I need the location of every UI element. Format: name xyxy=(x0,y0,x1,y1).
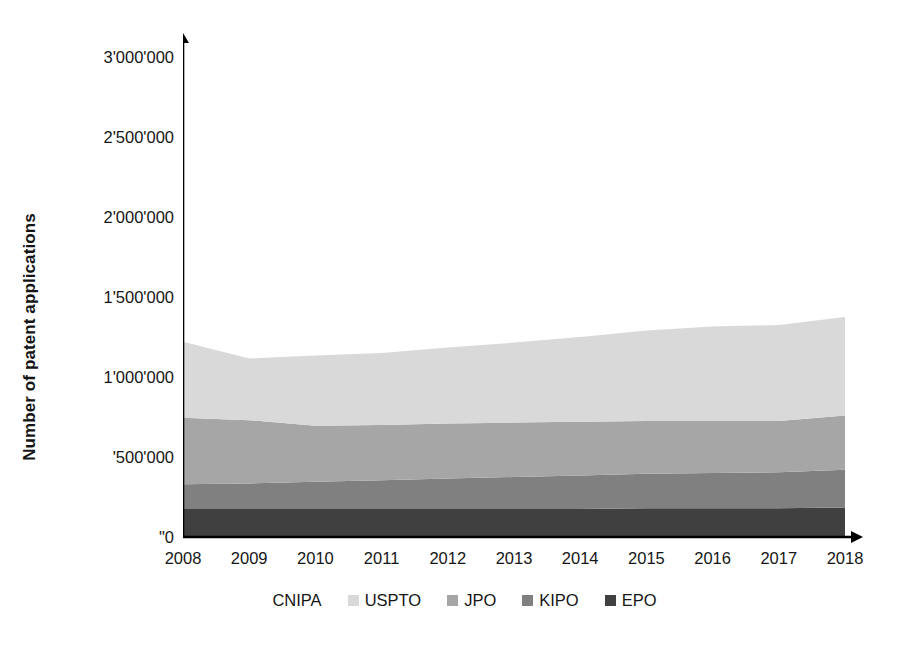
x-tick-label: 2012 xyxy=(413,549,483,569)
x-tick-label: 2018 xyxy=(810,549,880,569)
y-tick-label: 1'000'000 xyxy=(64,369,174,386)
y-tick-label: 1'500'000 xyxy=(64,289,174,306)
legend-swatch-icon xyxy=(522,595,533,606)
x-tick-label: 2013 xyxy=(479,549,549,569)
y-tick-label: 3'000'000 xyxy=(64,49,174,66)
legend-swatch-icon xyxy=(605,595,616,606)
area-band-epo xyxy=(183,507,845,537)
legend-label: EPO xyxy=(622,592,657,609)
x-tick-label: 2014 xyxy=(545,549,615,569)
area-band-uspto xyxy=(183,317,845,426)
plot-area xyxy=(183,33,863,543)
x-tick-label: 2009 xyxy=(214,549,284,569)
legend-item-epo[interactable]: EPO xyxy=(605,592,657,609)
chart-legend: CNIPAUSPTOJPOKIPOEPO xyxy=(0,592,912,609)
x-axis-arrow xyxy=(851,531,863,543)
y-axis-title-text: Number of patent applications xyxy=(20,213,40,461)
legend-label: USPTO xyxy=(365,592,422,609)
legend-item-kipo[interactable]: KIPO xyxy=(522,592,578,609)
legend-item-cnipa[interactable]: CNIPA xyxy=(255,592,321,609)
legend-swatch-icon xyxy=(348,595,359,606)
x-tick-label: 2016 xyxy=(678,549,748,569)
x-tick-label: 2008 xyxy=(148,549,218,569)
legend-swatch-icon xyxy=(447,595,458,606)
x-tick-label: 2011 xyxy=(347,549,417,569)
stacked-area-plot xyxy=(183,33,863,543)
legend-item-uspto[interactable]: USPTO xyxy=(348,592,422,609)
legend-swatch-icon xyxy=(255,595,266,606)
y-tick-label: '500'000 xyxy=(64,449,174,466)
chart-figure: Number of patent applications "0'500'000… xyxy=(0,0,912,649)
x-tick-label: 2010 xyxy=(280,549,350,569)
legend-label: KIPO xyxy=(539,592,578,609)
x-tick-label: 2015 xyxy=(611,549,681,569)
legend-label: JPO xyxy=(464,592,496,609)
x-tick-label: 2017 xyxy=(744,549,814,569)
y-tick-label: 2'500'000 xyxy=(64,129,174,146)
legend-item-jpo[interactable]: JPO xyxy=(447,592,496,609)
y-tick-label: "0 xyxy=(64,529,174,546)
x-axis-tick-labels: 2008200920102011201220132014201520162017… xyxy=(0,549,912,577)
y-tick-label: 2'000'000 xyxy=(64,209,174,226)
y-axis-arrow xyxy=(183,33,189,43)
legend-label: CNIPA xyxy=(272,592,321,609)
